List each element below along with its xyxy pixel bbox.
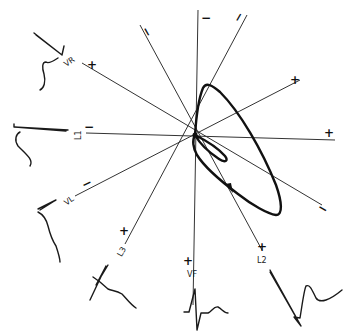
label-vf: VF bbox=[187, 270, 197, 279]
label-l3: L3 bbox=[115, 245, 128, 258]
waveform-l2 bbox=[270, 270, 342, 326]
lead-labels: VR L1 VL L3 VF L2 bbox=[62, 55, 266, 279]
vector-loops bbox=[193, 85, 281, 215]
waveform-vr bbox=[34, 33, 64, 90]
label-vl: VL bbox=[62, 194, 76, 207]
center-point bbox=[193, 133, 198, 138]
label-vr: VR bbox=[62, 55, 77, 69]
direction-arrow-icon bbox=[225, 183, 233, 193]
sign-bottom-vf: + bbox=[183, 254, 193, 268]
axis-l3 bbox=[125, 15, 247, 244]
waveform-vf bbox=[184, 289, 228, 330]
sign-top-right: − bbox=[230, 9, 247, 25]
sign-upper-right: + bbox=[290, 73, 300, 87]
label-l1: L1 bbox=[74, 130, 83, 140]
sign-lower-left: − bbox=[79, 175, 94, 192]
waveform-l1 bbox=[14, 124, 68, 166]
sign-top-vertical: − bbox=[201, 11, 211, 25]
hexaxial-diagram: − − − + + + − − − + + + VR L1 VL L3 VF L… bbox=[0, 0, 344, 333]
sign-bottom-l2: + bbox=[257, 240, 267, 254]
waveform-l3 bbox=[90, 265, 136, 308]
sign-right: + bbox=[324, 126, 334, 140]
sign-bottom-l3: + bbox=[119, 224, 129, 238]
sign-upper-left: + bbox=[87, 58, 97, 72]
label-l2: L2 bbox=[257, 256, 267, 265]
sign-left: − bbox=[84, 120, 94, 134]
waveform-vl bbox=[38, 200, 60, 262]
lead-axes bbox=[75, 10, 335, 305]
